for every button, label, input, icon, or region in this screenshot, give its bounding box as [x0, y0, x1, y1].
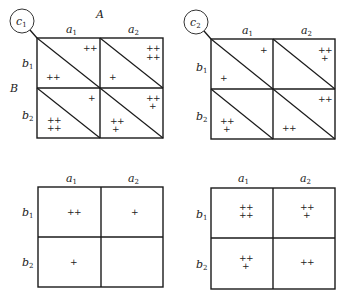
- cell-b2a2-lower-mark: +: [112, 124, 119, 134]
- row-label-b1: b1: [22, 57, 34, 71]
- panel-top-left-c1: c1 A B a1 a2 b1 b2 ++ ++ ++ ++ + + ++ ++…: [9, 8, 163, 138]
- panel-bottom-left: a1 a2 b1 b2 ++ + +: [22, 172, 163, 287]
- col-label-a1: a1: [66, 172, 77, 186]
- row-label-b2: b2: [22, 109, 34, 123]
- panel-top-right-c2: c2 a1 a2 b1 b2 + + ++ + ++ + ++ ++: [184, 10, 335, 139]
- cell-b2a1-lower-mark: ++: [47, 123, 61, 133]
- cell-b1a1-upper-mark: ++: [83, 43, 97, 53]
- cell-b1a1-mark: ++: [67, 207, 81, 217]
- cell-b2a2-lower-mark: ++: [282, 123, 296, 133]
- cell-b2a1-upper-mark: +: [88, 93, 95, 103]
- cell-b1a1-mark: ++: [239, 210, 253, 220]
- circle-connector: [204, 31, 211, 39]
- cell-b2a2-upper-mark: ++: [318, 94, 332, 104]
- cell-b1a2-upper-mark: +: [321, 53, 328, 63]
- col-label-a2: a2: [301, 24, 312, 38]
- factor-label-A: A: [95, 8, 104, 21]
- cell-b2a2-upper-mark: +: [149, 101, 156, 111]
- row-label-b2: b2: [196, 258, 208, 272]
- col-label-a1: a1: [242, 24, 253, 38]
- cell-b2a1-mark: +: [242, 261, 249, 271]
- cell-b1a1-upper-mark: +: [260, 45, 267, 55]
- factorial-design-diagram: c1 A B a1 a2 b1 b2 ++ ++ ++ ++ + + ++ ++…: [0, 0, 343, 295]
- row-label-b1: b1: [196, 61, 208, 75]
- cell-b1a2-mark: +: [131, 207, 138, 217]
- panel-bottom-right: a1 a2 b1 b2 ++ ++ ++ + ++ + ++: [196, 172, 335, 289]
- row-label-b2: b2: [22, 256, 34, 270]
- row-label-b2: b2: [196, 110, 208, 124]
- factor-label-B: B: [9, 82, 18, 95]
- col-label-a2: a2: [300, 172, 311, 186]
- cell-b2a1-lower-mark: +: [223, 124, 230, 134]
- cell-b1a1-lower-mark: +: [220, 73, 227, 83]
- col-label-a2: a2: [128, 172, 139, 186]
- col-label-a1: a1: [66, 23, 77, 37]
- cell-b2a1-mark: +: [70, 257, 77, 267]
- cell-b1a1-lower-mark: ++: [46, 72, 60, 82]
- cell-b1a2-lower-mark: +: [109, 72, 116, 82]
- circle-connector: [30, 30, 37, 38]
- cell-b1a2-mark: +: [303, 210, 310, 220]
- cell-diagonal: [211, 89, 273, 139]
- col-label-a2: a2: [128, 23, 139, 37]
- row-label-b1: b1: [22, 206, 34, 220]
- col-label-a1: a1: [238, 172, 249, 186]
- cell-b2a2-mark: ++: [300, 257, 314, 267]
- cell-b1a2-upper-mark: ++: [146, 52, 160, 62]
- row-label-b1: b1: [196, 208, 208, 222]
